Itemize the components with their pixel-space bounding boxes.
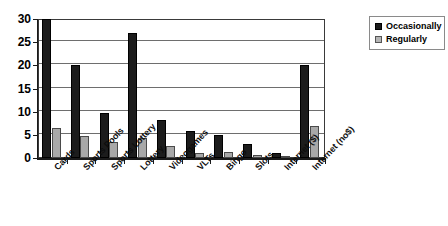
bar-occasionally (128, 33, 137, 158)
y-axis-tick-mark (33, 158, 37, 159)
black-square-swatch-icon (375, 23, 382, 30)
x-axis-tick-mark (239, 160, 240, 164)
bar-occasionally (214, 135, 223, 158)
bar-occasionally (186, 131, 195, 158)
x-axis-tick-mark (153, 160, 154, 164)
x-axis-tick-mark (210, 160, 211, 164)
bar-regularly (253, 155, 262, 158)
y-axis-tick-mark (33, 135, 37, 136)
x-axis-tick-mark (67, 160, 68, 164)
bar-regularly (80, 136, 89, 158)
legend-item-regularly: Regularly (375, 35, 440, 44)
gray-square-swatch-icon (375, 36, 382, 43)
y-axis-tick-mark (33, 112, 37, 113)
bar-occasionally (243, 144, 252, 158)
bar-regularly (310, 126, 319, 158)
bar-regularly (52, 128, 61, 158)
y-axis-tick-label: 25 (1, 36, 31, 48)
bar-regularly (224, 152, 233, 158)
x-axis-tick-mark (268, 160, 269, 164)
x-axis-tick-mark (124, 160, 125, 164)
chart-legend: Occasionally Regularly (369, 16, 445, 50)
bar-regularly (166, 146, 175, 158)
x-axis-tick-mark (95, 160, 96, 164)
y-axis-tick-label: 20 (1, 59, 31, 71)
bar-regularly (281, 156, 290, 158)
legend-item-occasionally: Occasionally (375, 22, 440, 31)
bar-regularly (195, 153, 204, 158)
bars-layer (38, 19, 324, 158)
y-axis-tick-label: 30 (1, 13, 31, 25)
bar-occasionally (272, 153, 281, 158)
y-axis-tick-mark (33, 65, 37, 66)
x-axis-tick-mark (296, 160, 297, 164)
y-axis-tick-mark (33, 89, 37, 90)
legend-label: Occasionally (386, 22, 442, 31)
x-axis-tick-mark (182, 160, 183, 164)
bar-occasionally (71, 65, 80, 158)
bar-occasionally (300, 65, 309, 158)
bar-regularly (109, 142, 118, 158)
y-axis-tick-mark (33, 19, 37, 20)
y-axis-tick-label: 0 (1, 152, 31, 164)
y-axis-tick-label: 10 (1, 106, 31, 118)
y-axis-tick-label: 5 (1, 129, 31, 141)
bar-occasionally (100, 113, 109, 158)
bar-chart: 051015202530 CardsSports PoolsSports Lot… (0, 0, 448, 226)
bar-regularly (138, 138, 147, 158)
y-axis-tick-mark (33, 42, 37, 43)
legend-label: Regularly (386, 35, 427, 44)
bar-occasionally (157, 120, 166, 158)
x-axis-tick-mark (325, 160, 326, 164)
bar-occasionally (42, 19, 51, 158)
y-axis-tick-labels: 051015202530 (0, 0, 31, 226)
y-axis-tick-label: 15 (1, 83, 31, 95)
